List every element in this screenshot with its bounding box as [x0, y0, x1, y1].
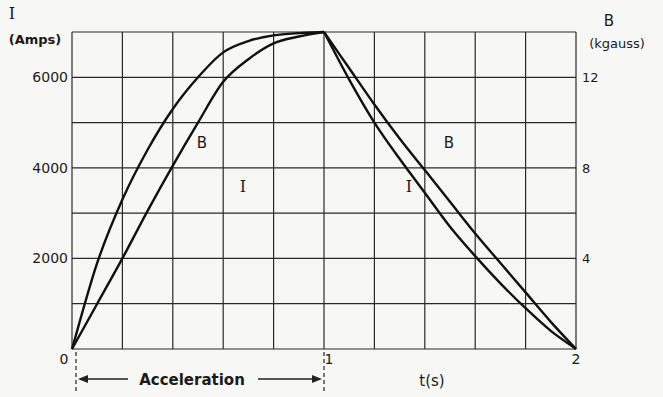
x-tick-label: 0 — [60, 351, 69, 367]
grid — [72, 32, 576, 349]
left-tick-label: 6000 — [32, 69, 68, 85]
right-axis-symbol: B — [604, 12, 614, 30]
curve-label-i-rising: I — [240, 177, 246, 196]
x-axis-label: t(s) — [419, 372, 444, 390]
x-tick-label: 2 — [572, 351, 581, 367]
left-tick-label: 2000 — [32, 250, 68, 266]
right-axis-ticks: 4812 — [582, 70, 599, 266]
left-axis-ticks: 200040006000 — [32, 69, 68, 266]
arrow-left-head — [78, 375, 88, 383]
arrow-right-head — [312, 375, 322, 383]
x-tick-label: 1 — [325, 351, 334, 367]
curve-label-i-falling: I — [406, 177, 412, 196]
left-axis-unit: (Amps) — [9, 32, 62, 47]
right-tick-label: 8 — [582, 161, 590, 176]
curve-label-b-falling: B — [444, 134, 454, 152]
right-tick-label: 12 — [582, 70, 599, 85]
chart: I (Amps) 200040006000 B (kgauss) 4812 01… — [0, 0, 663, 397]
acceleration-annotation: Acceleration — [76, 352, 324, 392]
right-tick-label: 4 — [582, 251, 590, 266]
right-axis-unit: (kgauss) — [589, 36, 645, 51]
x-axis-ticks: 012 — [60, 351, 581, 367]
acceleration-label: Acceleration — [139, 371, 245, 389]
left-axis-symbol: I — [9, 4, 15, 23]
curve-label-b-rising: B — [197, 134, 207, 152]
left-tick-label: 4000 — [32, 160, 68, 176]
